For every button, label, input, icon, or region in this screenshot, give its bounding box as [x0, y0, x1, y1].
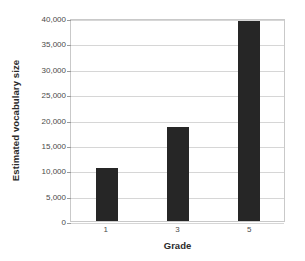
y-axis-tick-label: 5,000: [20, 192, 66, 201]
gridline: [71, 223, 284, 224]
x-axis-tick-labels: 135: [70, 225, 285, 238]
plot-area: [70, 19, 285, 222]
x-axis-title: Grade: [70, 240, 285, 251]
y-axis-tick-label: 0: [20, 218, 66, 227]
bar-chart-figure: Estimated vocabulary size 05,00010,00015…: [0, 0, 305, 261]
x-axis-tick-label: 3: [142, 225, 214, 238]
y-axis-tick-label: 10,000: [20, 167, 66, 176]
y-axis-tick-label: 25,000: [20, 91, 66, 100]
bar-slot: [71, 20, 142, 221]
bar: [238, 21, 260, 221]
y-axis-tick-mark: [67, 223, 71, 224]
y-axis-tick-labels: 05,00010,00015,00020,00025,00030,00035,0…: [20, 19, 66, 222]
y-axis-tick-label: 40,000: [20, 15, 66, 24]
y-axis-tick-label: 20,000: [20, 116, 66, 125]
y-axis-tick-label: 30,000: [20, 65, 66, 74]
y-axis-tick-label: 15,000: [20, 141, 66, 150]
bar-slot: [213, 20, 284, 221]
x-axis-tick-label: 1: [70, 225, 142, 238]
x-axis-tick-label: 5: [213, 225, 285, 238]
bar: [167, 127, 189, 221]
bar-series: [71, 20, 284, 221]
bar-slot: [142, 20, 213, 221]
bar: [96, 168, 118, 221]
y-axis-tick-label: 35,000: [20, 40, 66, 49]
